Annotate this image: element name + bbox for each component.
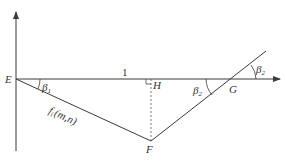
curve-label: fi(m,n)	[46, 104, 79, 129]
angle-label-beta2-inner: β2	[192, 84, 202, 98]
point-label-H: H	[152, 79, 162, 91]
segment-EF	[16, 79, 151, 141]
geometry-diagram: E H G F 1 fi(m,n) β1 β2 β2	[0, 0, 285, 161]
segment-FG	[151, 51, 266, 141]
point-label-G: G	[229, 83, 237, 95]
segment-length-label: 1	[122, 66, 128, 78]
angle-label-beta1: β1	[41, 81, 51, 95]
angle-arc-beta2-inner	[206, 79, 212, 95]
angle-label-beta2-outer: β2	[255, 63, 265, 77]
point-label-F: F	[145, 143, 153, 155]
angle-arc-beta1	[38, 79, 40, 89]
svg-text:fi(m,n): fi(m,n)	[46, 104, 79, 129]
right-angle-mark	[146, 79, 151, 84]
point-label-E: E	[4, 73, 12, 85]
